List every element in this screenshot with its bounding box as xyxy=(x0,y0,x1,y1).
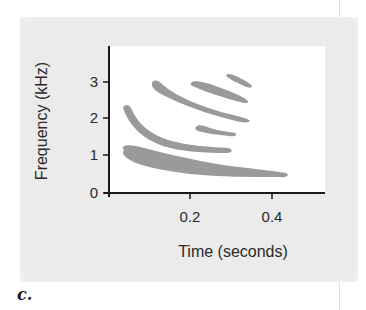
y-tick-label-3: 3 xyxy=(78,73,98,90)
x-tick-label-0-4: 0.4 xyxy=(262,208,283,225)
tick-marks xyxy=(103,82,272,199)
syllable-shapes xyxy=(123,74,288,177)
syllable-harmonic-5 xyxy=(226,74,252,88)
y-tick-label-1: 1 xyxy=(78,146,98,163)
y-axis-label: Frequency (kHz) xyxy=(33,62,51,180)
x-tick-label-0-2: 0.2 xyxy=(180,208,201,225)
y-tick-label-0: 0 xyxy=(78,184,98,201)
y-tick-label-2: 2 xyxy=(78,109,98,126)
syllable-harmonic-4 xyxy=(191,81,248,103)
x-axis-label: Time (seconds) xyxy=(178,243,288,261)
syllable-short-segment xyxy=(195,125,236,136)
figure-panel-label: c. xyxy=(17,285,32,304)
spectrogram-plot xyxy=(0,0,366,310)
